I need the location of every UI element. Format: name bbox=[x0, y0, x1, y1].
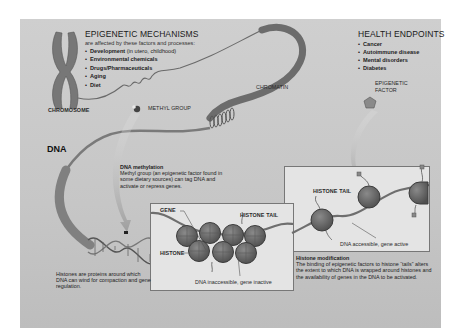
histone-label: HISTONE bbox=[160, 250, 185, 256]
gene-label: GENE bbox=[160, 207, 176, 213]
epigenetic-mechanisms-subtitle: are affected by these factors and proces… bbox=[85, 40, 195, 46]
methyl-group-label: METHYL GROUP bbox=[148, 105, 191, 111]
health-endpoints-list: Cancer Autoimmune disease Mental disorde… bbox=[358, 40, 419, 72]
epigenetic-factors-list: Development (in utero, childhood) Enviro… bbox=[85, 47, 176, 89]
chromatin-label: CHROMATIN bbox=[256, 84, 288, 90]
histone-tail-label-inactive: HISTONE TAIL bbox=[240, 212, 278, 218]
dna-methylation-body: Methyl group (an epigenetic factor found… bbox=[120, 170, 222, 188]
dna-inaccessible-label: DNA inaccessible, gene inactive bbox=[195, 279, 272, 285]
epigenetic-factor-label: EPIGENETIC FACTOR bbox=[375, 80, 408, 94]
factor-item: Development (in utero, childhood) bbox=[85, 47, 176, 55]
histone-tail-label-active: HISTONE TAIL bbox=[313, 188, 351, 194]
chromosome-label: CHROMOSOME bbox=[48, 107, 89, 113]
histones-note: Histones are proteins around which DNA c… bbox=[56, 271, 151, 290]
endpoint-item: Mental disorders bbox=[358, 56, 419, 64]
histone-modification-text: Histone modification The binding of epig… bbox=[296, 255, 434, 280]
dna-label: DNA bbox=[47, 144, 67, 154]
histone-modification-title: Histone modification bbox=[296, 255, 349, 261]
factor-item: Aging bbox=[85, 72, 176, 80]
health-endpoints-title: HEALTH ENDPOINTS bbox=[358, 30, 444, 40]
histone-modification-body: The binding of epigenetic factors to his… bbox=[296, 261, 431, 279]
dna-methylation-title: DNA methylation bbox=[120, 164, 163, 170]
factor-item: Drugs/Pharmaceuticals bbox=[85, 64, 176, 72]
factor-item: Environmental chemicals bbox=[85, 55, 176, 63]
dna-methylation-text: DNA methylation Methyl group (an epigene… bbox=[120, 164, 232, 189]
epigenetic-mechanisms-title: EPIGENETIC MECHANISMS bbox=[85, 30, 199, 40]
endpoint-item: Cancer bbox=[358, 40, 419, 48]
dna-accessible-label: DNA accessible, gene active bbox=[340, 241, 408, 247]
endpoint-item: Autoimmune disease bbox=[358, 48, 419, 56]
histone-cluster-icon bbox=[177, 223, 266, 264]
factor-item: Diet bbox=[85, 81, 176, 89]
endpoint-item: Diabetes bbox=[358, 64, 419, 72]
